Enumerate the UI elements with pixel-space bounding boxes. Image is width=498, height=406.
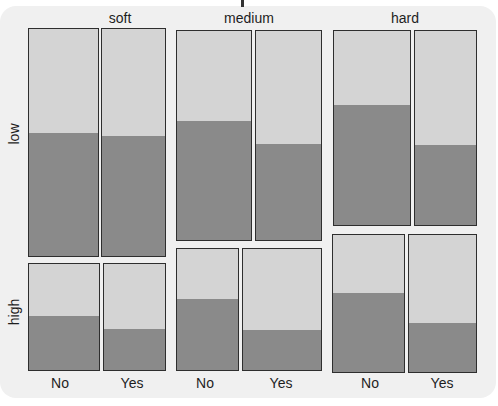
dark-segment [243, 330, 321, 370]
dark-segment [29, 133, 98, 256]
mosaic-tile-hard-low-yes [414, 30, 477, 226]
dark-segment [177, 299, 238, 370]
mosaic-tile-hard-high-no [332, 234, 405, 373]
x-label-yes: Yes [270, 375, 293, 391]
mosaic-tile-medium-high-no [176, 248, 239, 371]
column-label-hard: hard [391, 10, 419, 26]
x-label-no: No [196, 375, 214, 391]
dark-segment [415, 145, 476, 225]
dark-segment [177, 121, 251, 240]
x-label-yes: Yes [121, 375, 144, 391]
mosaic-tile-hard-high-yes [408, 234, 477, 373]
dark-segment [409, 323, 476, 372]
x-label-yes: Yes [431, 375, 454, 391]
mosaic-tile-medium-low-no [176, 30, 252, 241]
dark-segment [29, 316, 99, 370]
column-label-medium: medium [224, 10, 274, 26]
dark-segment [102, 136, 165, 256]
x-label-no: No [361, 375, 379, 391]
dark-segment [333, 293, 404, 372]
mosaic-tile-soft-low-yes [101, 28, 166, 257]
dark-segment [256, 144, 321, 240]
row-label-low: low [6, 123, 22, 144]
row-label-high: high [6, 299, 22, 325]
title-fragment [241, 0, 244, 7]
x-label-no: No [51, 375, 69, 391]
mosaic-tile-soft-high-yes [103, 263, 166, 371]
mosaic-tile-soft-high-no [28, 263, 100, 371]
dark-segment [334, 105, 410, 225]
dark-segment [104, 329, 165, 370]
mosaic-tile-soft-low-no [28, 28, 99, 257]
column-label-soft: soft [109, 10, 132, 26]
mosaic-tile-hard-low-no [333, 30, 411, 226]
mosaic-tile-medium-high-yes [242, 248, 322, 371]
mosaic-tile-medium-low-yes [255, 30, 322, 241]
